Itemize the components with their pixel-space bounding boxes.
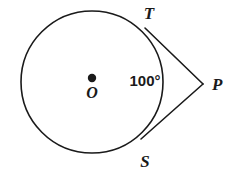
label-point-p: P [211, 75, 223, 94]
label-point-t: T [144, 4, 155, 23]
center-point-dot [88, 74, 96, 82]
circle-tangent-diagram: T S P O 100° [0, 0, 234, 175]
geometry-figure: T S P O 100° [0, 0, 234, 175]
label-center-o: O [86, 84, 98, 101]
label-angle-measure: 100° [129, 72, 160, 89]
label-point-s: S [140, 152, 149, 171]
tangent-segment-sp [141, 84, 203, 139]
